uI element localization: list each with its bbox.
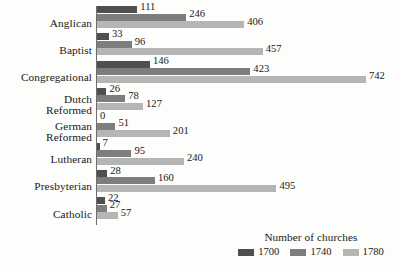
bar-1780 [97,103,143,110]
bar-value-label: 78 [128,91,139,102]
legend-swatch-icon [343,249,359,256]
bar-1740 [97,177,155,184]
category-label: German Reformed [0,121,92,144]
bar-chart: Anglican111246406Baptist3396457Congregat… [0,0,400,266]
category-label: Presbyterian [0,181,92,193]
bar-value-label: 33 [112,29,123,40]
bar-value-label: 495 [279,181,295,192]
bar-1700 [97,88,106,95]
bar-value-label: 406 [247,17,263,28]
bar-value-label: 742 [369,71,385,82]
bar-value-label: 0 [100,111,105,122]
bar-1780 [97,212,118,219]
bar-value-label: 51 [118,118,129,129]
legend-label: 1700 [258,247,279,258]
bar-value-label: 457 [266,44,282,55]
legend-label: 1740 [310,247,331,258]
bar-value-label: 7 [103,138,108,149]
legend-swatch-icon [238,249,254,256]
legend-label: 1780 [363,247,384,258]
bar-1780 [97,130,170,137]
bar-value-label: 423 [253,64,269,75]
category-label: Lutheran [0,154,92,166]
bar-value-label: 127 [146,99,162,110]
bar-1700 [97,6,137,13]
category-label: Anglican [0,18,92,30]
bar-1740 [97,123,115,130]
bar-1700 [97,197,105,204]
category-label: Baptist [0,45,92,57]
bar-1740 [97,68,250,75]
bar-1700 [97,170,107,177]
bar-value-label: 95 [134,146,145,157]
plot-area: Anglican111246406Baptist3396457Congregat… [0,0,400,230]
bar-1740 [97,150,131,157]
bar-1740 [97,95,125,102]
bar-value-label: 57 [121,208,132,219]
bar-value-label: 246 [189,9,205,20]
bar-1780 [97,48,263,55]
legend-items: 170017401780 [222,247,400,258]
bar-1700 [97,61,150,68]
category-label: Congregational [0,72,92,84]
bar-1740 [97,41,132,48]
bar-value-label: 240 [187,153,203,164]
bar-value-label: 111 [140,2,155,13]
category-label: Dutch Reformed [0,94,92,117]
bar-1740 [97,205,107,212]
bar-value-label: 96 [135,37,146,48]
bar-1780 [97,21,244,28]
legend-item-1740: 1740 [290,247,331,258]
legend-swatch-icon [290,249,306,256]
bar-value-label: 201 [173,126,189,137]
chart-legend: Number of churches 170017401780 [222,231,400,258]
bar-1780 [97,158,184,165]
bar-value-label: 160 [158,173,174,184]
bar-value-label: 28 [110,166,121,177]
legend-title: Number of churches [222,231,400,244]
legend-item-1700: 1700 [238,247,279,258]
bar-value-label: 146 [153,56,169,67]
bar-1780 [97,185,276,192]
bar-value-label: 26 [109,84,120,95]
legend-item-1780: 1780 [343,247,384,258]
bar-1780 [97,76,366,83]
bar-1700 [97,33,109,40]
bar-value-label: 27 [110,200,121,211]
bar-1700 [97,143,100,150]
bar-1740 [97,14,186,21]
category-label: Catholic [0,209,92,221]
